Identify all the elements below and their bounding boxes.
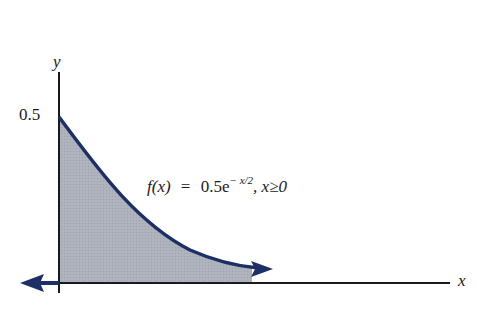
equals-sign: = (181, 177, 191, 196)
domain-condition: , x≥0 (253, 177, 287, 196)
y-axis-label: y (53, 52, 61, 72)
y-tick-label: 0.5 (19, 105, 40, 125)
function-annotation: f(x) = 0.5e− x/2, x≥0 (147, 177, 287, 197)
exponent: − x/2 (229, 174, 253, 186)
coefficient: 0.5e (201, 177, 230, 196)
x-axis-label: x (458, 271, 466, 291)
chart-canvas (0, 0, 477, 322)
shaded-area (59, 117, 252, 283)
function-name: f(x) (147, 177, 171, 196)
